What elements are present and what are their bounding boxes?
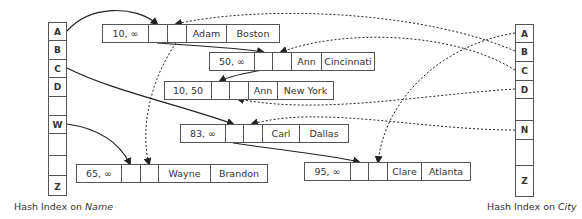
name-hash-index: A B C D W Z [48,22,67,196]
record-range: 95, ∞ [305,163,351,180]
city-index-cell [516,99,533,121]
name-index-cell: A [49,23,66,41]
name-pointer-slot [226,125,244,142]
city-a-to-clare-arrow [378,33,515,162]
record-city: Dallas [300,125,348,142]
city-pointer-slot [273,53,292,70]
name-index-cell: C [49,60,66,78]
name-w-to-wayne-arrow [67,124,130,164]
record-carl: 83, ∞ Carl Dallas [180,124,349,143]
record-name: Clare [388,163,422,180]
record-city: Boston [227,25,279,42]
record-city: New York [278,82,333,99]
record-range: 65, ∞ [77,165,122,182]
record-ann-cincinnati: 50, ∞ Ann Cincinnati [209,52,375,71]
record-wayne: 65, ∞ Wayne Brandon [76,164,268,183]
record-name: Wayne [159,165,211,182]
record-city: Atlanta [422,163,470,180]
adam-to-wayne-dotted-arrow [146,43,176,164]
name-index-cell [49,97,66,116]
city-index-caption: Hash Index on City [487,201,577,212]
name-index-cell: W [49,116,66,134]
record-clare: 95, ∞ Clare Atlanta [304,162,471,181]
name-pointer-slot [351,163,369,180]
record-name: Carl [263,125,300,142]
name-index-cell [49,134,66,156]
city-index-cell: N [516,121,533,140]
record-name: Ann [292,53,322,70]
record-range: 83, ∞ [181,125,226,142]
name-index-cell [49,156,66,176]
city-index-cell [516,140,533,166]
pointer-arrows [0,0,582,219]
record-adam: 10, ∞ Adam Boston [102,24,280,43]
city-pointer-slot [230,82,249,99]
city-index-cell: Z [516,166,533,196]
record-city: Cincinnati [322,53,374,70]
city-pointer-slot [168,25,187,42]
name-pointer-slot [122,165,141,182]
city-index-cell: A [516,25,533,43]
city-pointer-slot [244,125,263,142]
city-index-cell: D [516,81,533,99]
name-index-cell: Z [49,176,66,197]
name-index-cell: B [49,41,66,60]
name-pointer-slot [212,82,230,99]
record-range: 10, 50 [165,82,212,99]
record-name: Adam [187,25,227,42]
record-name: Ann [249,82,278,99]
city-pointer-slot [141,165,159,182]
name-index-caption: Hash Index on Name [14,201,113,212]
name-pointer-slot [149,25,168,42]
city-pointer-slot [369,163,388,180]
city-hash-index: A B C D N Z [515,24,534,197]
ann-cincinnati-to-ann-newyork-arrow [220,70,263,81]
city-index-cell: B [516,43,533,62]
city-index-cell: C [516,62,533,81]
name-pointer-slot [255,53,273,70]
record-ann-newyork: 10, 50 Ann New York [164,81,334,100]
name-index-cell: D [49,78,66,97]
carl-to-clare-arrow [233,143,359,162]
record-range: 50, ∞ [210,53,255,70]
record-range: 10, ∞ [103,25,149,42]
record-city: Brandon [211,165,267,182]
